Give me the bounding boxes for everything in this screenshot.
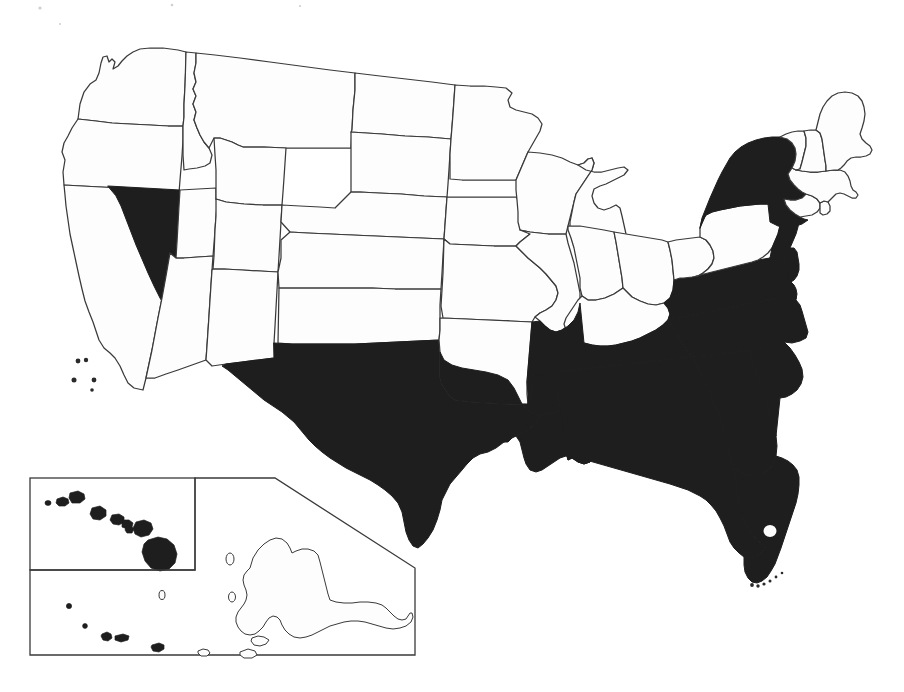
us-map-svg: [0, 0, 904, 692]
state-WY[interactable]: [214, 138, 286, 205]
state-RI[interactable]: [820, 201, 830, 215]
region-mountain-plains: [193, 53, 455, 366]
state-SD[interactable]: [351, 132, 451, 197]
state-OR[interactable]: [62, 119, 183, 193]
state-NM[interactable]: [206, 269, 278, 366]
us-map-figure: [0, 0, 904, 692]
state-KS[interactable]: [278, 232, 444, 289]
lake-okeechobee-hole: [764, 525, 777, 537]
state-OK[interactable]: [278, 288, 441, 344]
state-CO[interactable]: [213, 199, 282, 272]
state-ND[interactable]: [351, 73, 455, 139]
